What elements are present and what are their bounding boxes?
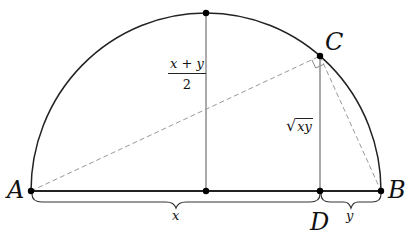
right-angle-marker <box>312 60 324 68</box>
point-center <box>203 188 209 194</box>
brace-x <box>32 194 320 208</box>
semicircle-diagram <box>0 0 408 236</box>
brace-y <box>321 194 381 208</box>
point-d <box>317 188 323 194</box>
dashed-cb <box>320 56 381 191</box>
label-y: y <box>346 209 353 222</box>
geometric-mean-label: √xy <box>286 116 313 135</box>
arithmetic-mean-label: x + y 2 <box>168 56 206 92</box>
point-top <box>203 10 209 16</box>
radical-argument: xy <box>296 118 313 134</box>
radical-sign: √ <box>286 116 296 135</box>
label-d: D <box>310 210 329 234</box>
label-c: C <box>325 30 343 54</box>
point-c <box>317 53 323 59</box>
label-a: A <box>7 178 24 202</box>
fraction-numerator: x + y <box>168 56 206 74</box>
label-x: x <box>172 209 179 222</box>
point-a <box>28 188 34 194</box>
label-b: B <box>388 178 406 202</box>
fraction-denominator: 2 <box>168 74 206 92</box>
point-b <box>378 188 384 194</box>
